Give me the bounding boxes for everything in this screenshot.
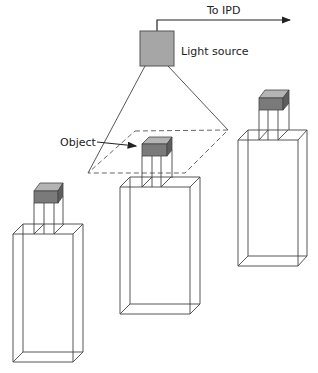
diagram-canvas: To IPD Light source Object: [0, 0, 318, 373]
light-source-label: Light source: [181, 45, 249, 58]
object-label: Object: [60, 136, 97, 149]
to-ipd-arrow: [157, 20, 290, 31]
light-cone: [88, 66, 228, 173]
light-source-box: [140, 31, 174, 66]
container-left: [13, 183, 83, 362]
container-center: [120, 137, 200, 314]
container-right: [238, 90, 307, 266]
to-ipd-label: To IPD: [206, 4, 240, 17]
